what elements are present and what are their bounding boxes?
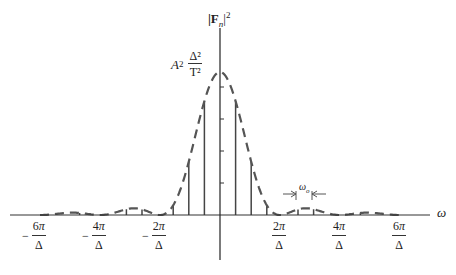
y-axis-label: |Fn|2: [208, 11, 230, 29]
x-tick-label: −6πΔ: [22, 219, 46, 253]
x-tick-label: 6πΔ: [392, 219, 406, 253]
spectrum-plot: [0, 0, 456, 275]
y-axis-ticks: [220, 87, 224, 183]
peak-value-label: A2 Δ² T²: [171, 50, 202, 78]
x-tick-label: −2πΔ: [142, 219, 166, 253]
omega-o-label: ωo: [299, 182, 310, 195]
x-tick-label: 4πΔ: [332, 219, 346, 253]
x-axis-label: ω: [437, 206, 446, 219]
x-tick-label: −4πΔ: [82, 219, 106, 253]
x-tick-label: 2πΔ: [272, 219, 286, 253]
